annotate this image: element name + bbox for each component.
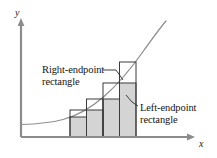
left-endpoint-rectangle-1 [70, 117, 87, 137]
x-axis-arrowhead [187, 134, 195, 141]
x-axis-label: x [199, 138, 203, 149]
left-endpoint-rectangle-3 [103, 99, 120, 137]
right-endpoint-label-line2: rectangle [42, 76, 104, 88]
left-endpoint-rectangle-2 [87, 110, 104, 137]
right-endpoint-label-line1: Right-endpoint [42, 64, 104, 76]
left-endpoint-label-line1: Left-endpoint [140, 102, 196, 114]
left-endpoint-rectangle-label: Left-endpoint rectangle [140, 102, 196, 125]
figure-canvas [0, 0, 217, 158]
left-endpoint-rectangle-4 [120, 83, 137, 137]
y-axis-label: y [15, 7, 19, 18]
y-axis-arrowhead [18, 18, 25, 26]
y-axis [18, 18, 25, 137]
riemann-sum-figure: Right-endpoint rectangle Left-endpoint r… [0, 0, 217, 158]
right-endpoint-rectangle-label: Right-endpoint rectangle [42, 64, 104, 87]
left-endpoint-label-line2: rectangle [140, 114, 196, 126]
